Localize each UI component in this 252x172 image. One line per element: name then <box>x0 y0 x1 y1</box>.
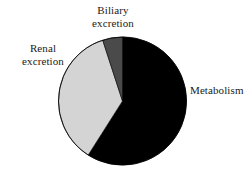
pie-label-biliary-excretion: Biliary excretion <box>70 4 156 30</box>
pie-label-metabolism: Metabolism <box>190 84 252 97</box>
pie-label-renal-excretion: Renal excretion <box>6 42 80 68</box>
pie-chart-figure: Biliary excretion Renal excretion Metabo… <box>0 0 252 172</box>
